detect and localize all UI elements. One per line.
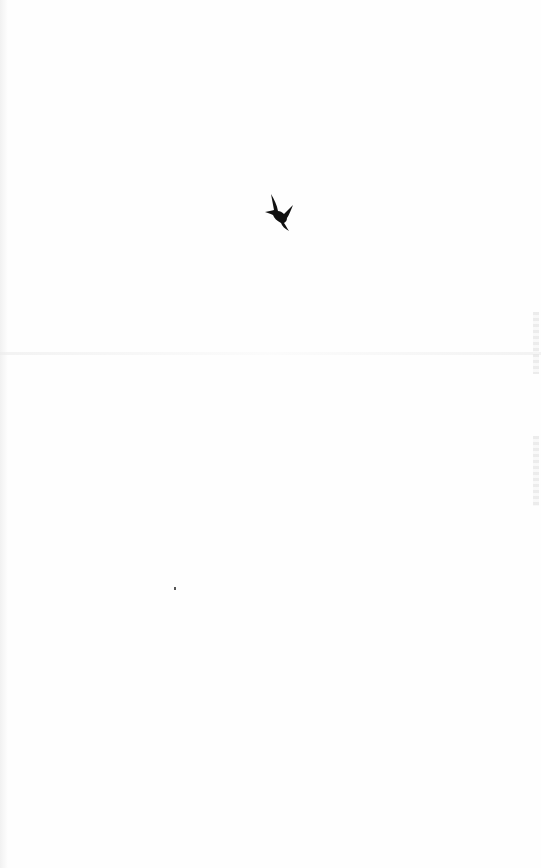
blank-book-page — [0, 0, 541, 868]
bird-in-flight-icon — [262, 193, 294, 233]
print-speck — [174, 587, 176, 590]
library-stamp-watermark — [533, 436, 539, 506]
page-edge-shadow — [0, 0, 8, 868]
bleed-through-line — [0, 352, 541, 355]
library-stamp-watermark — [533, 312, 539, 374]
